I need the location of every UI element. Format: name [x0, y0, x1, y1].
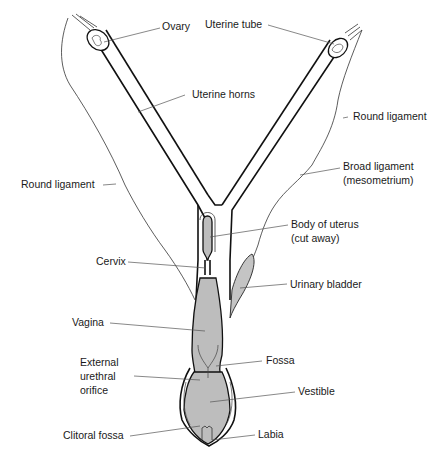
left-ovary: [72, 14, 113, 55]
label-uterine-horns: Uterine horns: [192, 88, 255, 100]
label-urethral: urethral: [80, 370, 116, 382]
label-round-ligament-right: Round ligament: [353, 110, 427, 122]
label-urinary-bladder: Urinary bladder: [290, 278, 362, 290]
broad-ligament-left-outline: [62, 18, 196, 300]
reproductive-tract-diagram: Ovary Uterine tube Uterine horns Round l…: [0, 0, 442, 461]
broad-ligament-right-outline: [240, 30, 362, 285]
label-vagina: Vagina: [72, 316, 104, 328]
left-uterine-horn: [92, 35, 205, 218]
body-of-uterus: [203, 216, 212, 260]
label-uterine-tube: Uterine tube: [205, 18, 262, 30]
label-ovary: Ovary: [162, 20, 191, 32]
label-cervix: Cervix: [96, 255, 127, 267]
label-fossa: Fossa: [266, 354, 295, 366]
vagina: [192, 278, 223, 385]
label-cut-away: (cut away): [291, 232, 339, 244]
right-uterine-horn: [222, 40, 330, 205]
label-clitoral-fossa: Clitoral fossa: [63, 429, 124, 441]
cervix: [205, 260, 210, 275]
label-broad-ligament: Broad ligament: [343, 160, 414, 172]
label-orifice: orifice: [80, 384, 108, 396]
label-body-of-uterus: Body of uterus: [291, 218, 359, 230]
label-mesometrium: (mesometrium): [343, 174, 414, 186]
urinary-bladder: [230, 254, 254, 318]
label-vestible: Vestible: [298, 385, 335, 397]
label-external: External: [80, 356, 119, 368]
label-round-ligament-left: Round ligament: [21, 178, 95, 190]
label-labia: Labia: [258, 428, 284, 440]
